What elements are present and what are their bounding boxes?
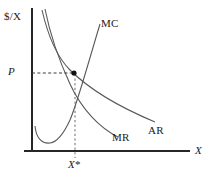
- ar-curve-label: AR: [148, 125, 164, 136]
- mr-curve-label: MR: [112, 132, 130, 143]
- y-axis-label-text: $/X: [4, 10, 21, 22]
- quantity-axis-label: X*: [68, 159, 81, 170]
- ar-curve: [42, 10, 155, 122]
- price-axis-label: P: [8, 66, 15, 77]
- mc-curve: [35, 24, 100, 143]
- mc-curve-label: MC: [101, 18, 119, 29]
- price-axis-label-base: P: [8, 65, 15, 77]
- x-axis-label: X: [195, 145, 202, 156]
- quantity-axis-label-base: X: [68, 158, 75, 170]
- y-axis-label: $/X: [4, 11, 21, 22]
- equilibrium-point-marker: [71, 70, 76, 75]
- quantity-axis-label-star: *: [75, 158, 81, 170]
- economics-diagram: $/X X MC MR AR P X*: [0, 0, 211, 179]
